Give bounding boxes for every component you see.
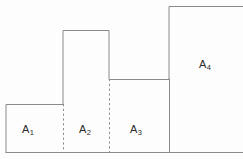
region-label-a4-base: A (199, 58, 207, 70)
step-region-figure: A1 A2 A3 A4 (0, 0, 243, 159)
region-label-a2-base: A (79, 123, 87, 135)
region-label-a1: A1 (22, 123, 34, 135)
region-label-a3-subscript: 3 (138, 128, 142, 137)
region-label-a2-subscript: 2 (87, 128, 91, 137)
region-label-a3: A3 (130, 123, 142, 135)
outline-step-profile (6, 7, 243, 153)
region-label-a1-base: A (22, 123, 30, 135)
region-label-a4: A4 (199, 58, 211, 70)
region-label-a2: A2 (79, 123, 91, 135)
figure-canvas (0, 0, 243, 159)
region-label-a3-base: A (130, 123, 138, 135)
region-label-a4-subscript: 4 (207, 63, 211, 72)
region-label-a1-subscript: 1 (30, 128, 34, 137)
